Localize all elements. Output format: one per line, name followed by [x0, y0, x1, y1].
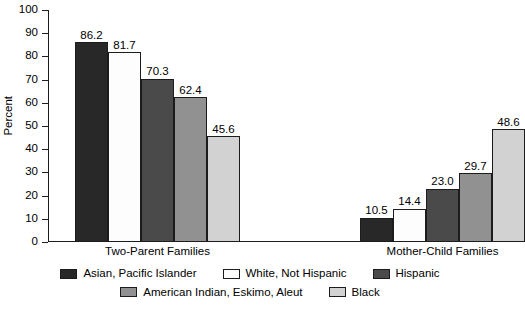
legend-row-secondary: American Indian, Eskimo, AleutBlack — [0, 287, 500, 299]
y-axis-tick-label: 80 — [25, 51, 38, 63]
y-axis-tick-label: 60 — [25, 97, 38, 109]
bar-value-label: 23.0 — [431, 176, 453, 188]
legend-item: Hispanic — [373, 268, 440, 280]
bar: 45.6 — [207, 136, 240, 242]
legend-row-primary: Asian, Pacific IslanderWhite, Not Hispan… — [0, 268, 500, 280]
legend-item: Black — [329, 287, 380, 299]
legend-label: Black — [352, 287, 380, 299]
bar: 81.7 — [108, 52, 141, 242]
legend-swatch — [373, 269, 390, 279]
y-axis-tick-label: 70 — [25, 74, 38, 86]
legend-swatch — [60, 269, 77, 279]
legend-swatch — [120, 287, 137, 297]
x-axis-group-label: Mother-Child Families — [387, 246, 499, 258]
legend-swatch — [329, 287, 346, 297]
legend-label: Hispanic — [396, 268, 440, 280]
x-axis-group-label: Two-Parent Families — [105, 246, 210, 258]
y-axis-tick-label: 90 — [25, 27, 38, 39]
bar: 48.6 — [492, 129, 525, 242]
legend-item: White, Not Hispanic — [223, 268, 347, 280]
y-axis-tick-label: 50 — [25, 120, 38, 132]
bar-value-label: 81.7 — [113, 40, 135, 52]
y-axis-tick-label: 10 — [25, 213, 38, 225]
bar-value-label: 62.4 — [179, 85, 201, 97]
y-axis-tick-label: 100 — [19, 4, 38, 16]
bar: 14.4 — [393, 209, 426, 242]
bar: 70.3 — [141, 79, 174, 242]
y-axis-title-text: Percent — [3, 96, 15, 136]
bar: 10.5 — [360, 218, 393, 242]
y-axis-tick-label: 30 — [25, 167, 38, 179]
chart-legend: Asian, Pacific IslanderWhite, Not Hispan… — [0, 268, 500, 305]
y-axis-tick-mark — [42, 242, 48, 243]
legend-swatch — [223, 269, 240, 279]
legend-label: Asian, Pacific Islander — [83, 268, 196, 280]
bar-value-label: 86.2 — [80, 30, 102, 42]
bars-layer: 86.281.770.362.445.610.514.423.029.748.6 — [48, 10, 480, 242]
plot-area: 0102030405060708090100 86.281.770.362.44… — [48, 10, 480, 242]
bar: 29.7 — [459, 173, 492, 242]
legend-label: White, Not Hispanic — [246, 268, 347, 280]
y-axis-title: Percent — [2, 0, 16, 232]
bar-value-label: 45.6 — [212, 124, 234, 136]
bar: 62.4 — [174, 97, 207, 242]
bar: 86.2 — [75, 42, 108, 242]
bar-value-label: 14.4 — [398, 196, 420, 208]
bar-value-label: 10.5 — [365, 205, 387, 217]
bar: 23.0 — [426, 189, 459, 242]
bar-value-label: 29.7 — [464, 161, 486, 173]
legend-item: American Indian, Eskimo, Aleut — [120, 287, 302, 299]
y-axis-tick-label: 20 — [25, 190, 38, 202]
legend-label: American Indian, Eskimo, Aleut — [143, 287, 302, 299]
bar-value-label: 70.3 — [146, 66, 168, 78]
y-axis-tick-label: 0 — [32, 236, 38, 248]
y-axis-tick-label: 40 — [25, 143, 38, 155]
legend-item: Asian, Pacific Islander — [60, 268, 196, 280]
bar-value-label: 48.6 — [497, 117, 519, 129]
